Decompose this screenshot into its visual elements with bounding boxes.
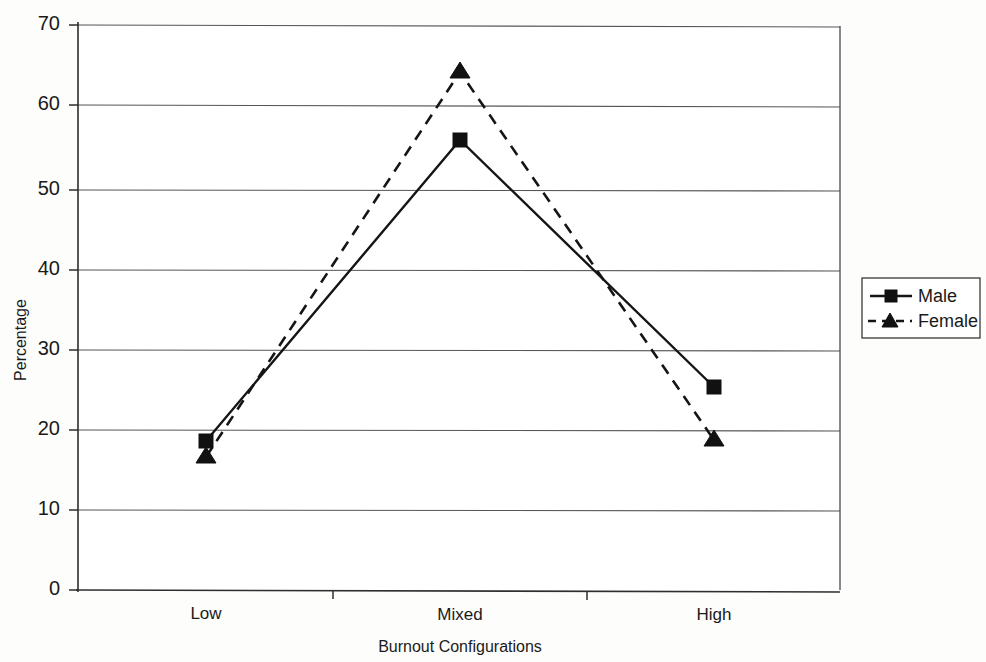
- x-axis-title: Burnout Configurations: [378, 638, 542, 655]
- x-axis-line: [76, 590, 840, 592]
- x-tick-label-low: Low: [190, 604, 222, 623]
- plot-area-background: [78, 25, 840, 590]
- y-tick-label-10: 10: [38, 497, 60, 519]
- y-tick-label-20: 20: [38, 417, 60, 439]
- legend-label-female: Female: [918, 311, 978, 331]
- y-tick-label-50: 50: [38, 177, 60, 199]
- y-tick-label-40: 40: [38, 257, 60, 279]
- x-tick-labels: Low Mixed High: [190, 604, 731, 624]
- y-tick-label-70: 70: [38, 12, 60, 34]
- y-axis-title: Percentage: [12, 299, 29, 381]
- y-tick-labels: 70 60 50 40 30 20 10 0: [38, 12, 60, 599]
- y-tick-label-0: 0: [49, 577, 60, 599]
- x-tick-label-high: High: [697, 605, 732, 624]
- square-marker-icon: [453, 133, 467, 147]
- square-marker-icon: [707, 380, 721, 394]
- y-tick-label-60: 60: [38, 92, 60, 114]
- y-tick-marks: [69, 25, 78, 590]
- chart-legend: Male Female: [862, 278, 980, 338]
- x-tick-label-mixed: Mixed: [437, 605, 482, 624]
- y-tick-label-30: 30: [38, 337, 60, 359]
- square-marker-icon: [885, 290, 897, 302]
- square-marker-icon: [199, 434, 213, 448]
- line-chart: 70 60 50 40 30 20 10 0 Percentage Low Mi…: [0, 0, 986, 662]
- legend-label-male: Male: [918, 286, 957, 306]
- chart-figure: 70 60 50 40 30 20 10 0 Percentage Low Mi…: [0, 0, 986, 662]
